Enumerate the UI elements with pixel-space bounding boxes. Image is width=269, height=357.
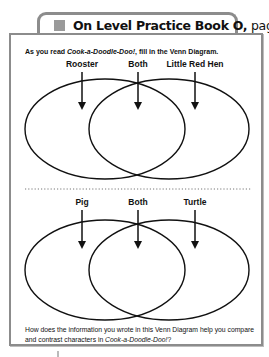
venn-bottom bbox=[25, 210, 249, 320]
reflection-question: How does the information you wrote in th… bbox=[25, 325, 260, 345]
venn-diagrams bbox=[0, 0, 269, 357]
arrow-head-icon bbox=[78, 102, 86, 110]
arrow-head-icon bbox=[191, 241, 199, 249]
arrow-head-icon bbox=[134, 241, 142, 249]
venn-top bbox=[25, 72, 249, 179]
arrow-head-icon bbox=[78, 241, 86, 249]
venn-circle-left bbox=[25, 79, 185, 179]
venn-circle-left bbox=[25, 220, 185, 320]
arrow-head-icon bbox=[134, 102, 142, 110]
small-mark bbox=[57, 351, 59, 357]
venn-circle-right bbox=[89, 220, 249, 320]
arrow-head-icon bbox=[191, 102, 199, 110]
venn-circle-right bbox=[89, 79, 249, 179]
